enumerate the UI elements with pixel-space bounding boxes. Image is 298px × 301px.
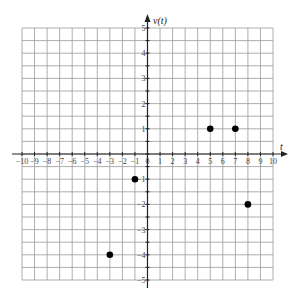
x-tick-label: 1 <box>158 157 162 166</box>
x-tick-label: 6 <box>221 157 225 166</box>
data-point <box>232 126 239 133</box>
y-tick-label: −5 <box>137 276 146 285</box>
data-point <box>132 176 139 183</box>
x-tick-label: 7 <box>233 157 237 166</box>
y-tick-label: 4 <box>142 49 146 58</box>
data-point <box>107 252 114 259</box>
y-tick-label: −3 <box>137 226 146 235</box>
x-tick-label: 4 <box>196 157 200 166</box>
x-tick-label: −10 <box>16 157 29 166</box>
scatter-chart: −10−9−8−7−6−5−4−3−2−1012345678910−5−4−3−… <box>0 0 298 301</box>
x-tick-label: 8 <box>246 157 250 166</box>
x-tick-label: −7 <box>55 157 64 166</box>
y-tick-label: −4 <box>137 251 146 260</box>
y-tick-label: −1 <box>137 175 146 184</box>
y-axis-label: v(t) <box>153 15 168 27</box>
x-tick-label: 3 <box>183 157 187 166</box>
x-tick-label: 9 <box>258 157 262 166</box>
x-tick-label: −2 <box>118 157 127 166</box>
x-axis-label: t <box>280 141 283 152</box>
y-tick-label: 1 <box>142 125 146 134</box>
data-point <box>207 126 214 133</box>
y-axis-arrow-icon <box>145 14 151 22</box>
x-tick-label: −8 <box>43 157 52 166</box>
y-tick-label: 5 <box>142 24 146 33</box>
x-tick-label: 0 <box>146 157 150 166</box>
x-tick-label: 2 <box>171 157 175 166</box>
x-tick-label: −3 <box>106 157 115 166</box>
x-tick-label: −6 <box>68 157 77 166</box>
x-tick-label: −5 <box>80 157 89 166</box>
x-tick-label: −4 <box>93 157 102 166</box>
axes <box>12 14 288 288</box>
x-tick-label: −1 <box>131 157 140 166</box>
x-tick-label: 10 <box>269 157 277 166</box>
y-tick-label: −2 <box>137 200 146 209</box>
y-tick-label: 2 <box>142 100 146 109</box>
x-tick-label: −9 <box>30 157 39 166</box>
data-point <box>245 201 252 208</box>
y-tick-label: 3 <box>142 74 146 83</box>
x-tick-label: 5 <box>208 157 212 166</box>
